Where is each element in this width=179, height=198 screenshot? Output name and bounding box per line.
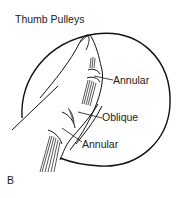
figure-title: Thumb Pulleys <box>15 13 84 25</box>
annular-pulley-top <box>88 69 100 74</box>
thumbnail <box>80 36 89 50</box>
label-annular-top: Annular <box>113 74 149 86</box>
label-oblique: Oblique <box>102 111 138 123</box>
label-annular-bottom: Annular <box>82 138 118 150</box>
thumb-edge-line <box>12 86 58 130</box>
leader-annular-top <box>94 76 113 80</box>
flexor-tendon-upper <box>82 80 96 106</box>
thumb-pulley-illustration <box>0 0 179 198</box>
tendon-fibers-top <box>90 57 95 68</box>
flexor-tendon-lower <box>40 136 60 172</box>
panel-label: B <box>7 174 14 186</box>
thumb-outline <box>40 35 103 150</box>
